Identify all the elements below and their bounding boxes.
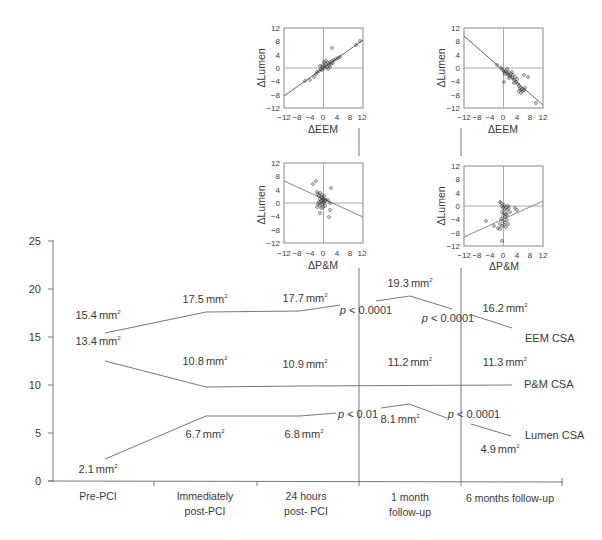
svg-text:−4: −4 — [451, 215, 461, 224]
svg-text:8: 8 — [276, 172, 281, 181]
cat-1month-l1: 1 month — [391, 491, 429, 503]
lumen-label-3: 8.1mm2 — [381, 413, 421, 425]
svg-text:4: 4 — [276, 186, 281, 195]
eem-label-4: 16.2mm2 — [482, 302, 528, 314]
lumen-label-2: 6.8mm2 — [285, 428, 325, 440]
series-legend: EEM CSA P&M CSA Lumen CSA — [524, 332, 585, 441]
eem-label-0: 15.4mm2 — [75, 309, 121, 321]
svg-text:12: 12 — [539, 113, 548, 122]
svg-text:−12: −12 — [457, 113, 471, 122]
svg-text:−12: −12 — [277, 113, 291, 122]
svg-text:0: 0 — [276, 199, 281, 208]
scatter-top-left — [284, 28, 363, 108]
cat-1month-l2: follow-up — [389, 506, 431, 518]
scatter-bottom-right-yticks: 12 8 4 0 −4 −8 −12 — [446, 162, 460, 251]
svg-text:4: 4 — [335, 249, 340, 258]
scatter-points — [496, 64, 538, 105]
cat-24h-l2: post- PCI — [284, 505, 328, 517]
eem-label-3: 19.3mm2 — [387, 277, 433, 289]
svg-text:12: 12 — [271, 24, 280, 33]
figure: 25 20 15 10 5 0 Pre-PCI Immediately post… — [0, 0, 602, 540]
scatter-top-right-ylabel: ΔLumen — [435, 48, 447, 87]
legend-pm: P&M CSA — [524, 378, 574, 390]
pm-label-1: 10.8mm2 — [182, 355, 228, 367]
svg-text:−8: −8 — [472, 113, 482, 122]
svg-text:8: 8 — [276, 37, 281, 46]
value-labels: 15.4mm2 17.5mm2 17.7mm2 19.3mm2 16.2mm2 … — [75, 277, 528, 475]
eem-label-2: 17.7mm2 — [282, 292, 328, 304]
scatter-bottom-right-ylabel: ΔLumen — [435, 186, 447, 225]
scatter-bottom-left-ylabel: ΔLumen — [255, 185, 267, 224]
series-eem-line-3 — [472, 315, 512, 328]
scatter-top-right-yticks: 12 8 4 0 −4 −8 −12 — [446, 24, 460, 113]
svg-text:−4: −4 — [485, 251, 495, 260]
cat-pre-pci: Pre-PCI — [79, 490, 116, 502]
svg-text:0: 0 — [321, 113, 326, 122]
pm-label-2: 10.9mm2 — [282, 358, 328, 370]
svg-text:8: 8 — [348, 249, 353, 258]
svg-text:4: 4 — [515, 113, 520, 122]
svg-text:−12: −12 — [266, 239, 280, 248]
scatter-bottom-left — [284, 163, 363, 243]
svg-text:12: 12 — [451, 162, 460, 171]
series-eem-line — [105, 305, 340, 333]
svg-text:12: 12 — [451, 24, 460, 33]
ytick-5: 5 — [35, 427, 41, 439]
svg-text:0: 0 — [501, 113, 506, 122]
scatter-bottom-left-yticks: 12 8 4 0 −4 −8 −12 — [266, 159, 280, 248]
scatter-top-right — [464, 28, 543, 108]
scatter-bottom-right — [464, 166, 543, 246]
svg-text:0: 0 — [456, 202, 461, 211]
svg-text:−4: −4 — [305, 113, 315, 122]
x-category-labels: Pre-PCI Immediately post-PCI 24 hours po… — [79, 490, 554, 518]
svg-text:−8: −8 — [271, 91, 281, 100]
svg-text:0: 0 — [456, 64, 461, 73]
svg-text:12: 12 — [271, 159, 280, 168]
svg-text:−8: −8 — [472, 251, 482, 260]
svg-text:−12: −12 — [446, 242, 460, 251]
svg-text:−8: −8 — [292, 249, 302, 258]
svg-text:8: 8 — [348, 113, 353, 122]
scatter-top-right-xticks: −12 −8 −4 0 4 8 12 — [457, 113, 548, 122]
svg-text:−4: −4 — [271, 212, 281, 221]
scatter-points — [312, 180, 333, 219]
pm-label-4: 11.3mm2 — [483, 356, 528, 368]
svg-text:−4: −4 — [305, 249, 315, 258]
cat-immediately-l2: post-PCI — [185, 505, 226, 517]
ytick-25: 25 — [29, 235, 41, 247]
scatter-top-left-xlabel: ΔEEM — [308, 123, 338, 135]
cat-immediately-l1: Immediately — [177, 490, 234, 502]
svg-text:12: 12 — [358, 113, 367, 122]
lumen-label-4: 4.9mm2 — [481, 443, 521, 455]
legend-eem: EEM CSA — [525, 332, 575, 344]
ytick-0: 0 — [35, 475, 41, 487]
svg-text:0: 0 — [501, 251, 506, 260]
svg-text:−8: −8 — [292, 113, 302, 122]
svg-text:0: 0 — [276, 64, 281, 73]
pm-label-3: 11.2mm2 — [388, 356, 433, 368]
svg-text:8: 8 — [456, 175, 461, 184]
svg-text:−8: −8 — [451, 229, 461, 238]
series-lumen-line-3 — [471, 424, 511, 436]
svg-text:−12: −12 — [277, 249, 291, 258]
svg-text:−4: −4 — [271, 77, 281, 86]
svg-text:0: 0 — [321, 249, 326, 258]
p-lumen-1: p < 0.01 — [337, 408, 378, 420]
svg-text:4: 4 — [335, 113, 340, 122]
scatter-bottom-left-xticks: −12 −8 −4 0 4 8 12 — [277, 249, 367, 258]
cat-24h-l1: 24 hours — [286, 490, 327, 502]
p-eem-1: p < 0.0001 — [339, 304, 392, 316]
eem-label-1: 17.5mm2 — [182, 293, 228, 305]
svg-text:8: 8 — [528, 251, 533, 260]
scatter-top-left-ylabel: ΔLumen — [255, 48, 267, 87]
y-tick-labels: 25 20 15 10 5 0 — [29, 235, 41, 487]
svg-text:4: 4 — [456, 189, 461, 198]
lumen-label-0: 2.1mm2 — [79, 463, 119, 475]
svg-text:12: 12 — [539, 251, 548, 260]
svg-text:−12: −12 — [457, 251, 471, 260]
p-eem-2: p < 0.0001 — [421, 312, 474, 324]
ytick-20: 20 — [29, 283, 41, 295]
svg-text:4: 4 — [515, 251, 520, 260]
svg-text:−8: −8 — [451, 91, 461, 100]
scatter-points — [485, 201, 519, 243]
